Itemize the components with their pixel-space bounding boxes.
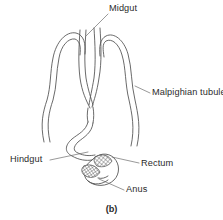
figure-container: Midgut Malpighian tubule Hindgut Rectum … [0,0,223,220]
label-midgut: Midgut [109,4,137,13]
gut-junction [87,107,94,123]
midgut-tube [79,28,101,108]
label-anus: Anus [126,185,147,194]
label-hindgut: Hindgut [10,155,42,164]
figure-caption: (b) [0,204,223,214]
hindgut-leader-line [50,152,88,160]
label-malpighian-tubule: Malpighian tubule [152,88,223,97]
hindgut-tube [66,122,95,160]
malpighian-tubule-right [100,35,139,146]
label-rectum: Rectum [141,159,173,168]
midgut-leader-line [86,14,108,36]
malpighian-leader-line [135,86,150,93]
anatomy-diagram [0,0,223,220]
